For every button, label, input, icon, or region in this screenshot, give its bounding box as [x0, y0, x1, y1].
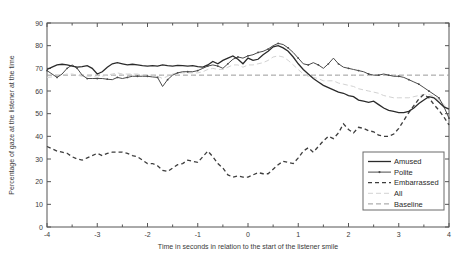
series-marker-polite	[267, 48, 269, 50]
series-marker-polite	[247, 55, 249, 57]
series-marker-polite	[368, 73, 370, 75]
y-tick-label: 10	[35, 201, 43, 208]
figure-background	[0, 0, 472, 255]
y-tick-label: 80	[35, 42, 43, 49]
x-tick-label: -1	[195, 231, 201, 238]
series-marker-polite	[287, 47, 289, 49]
series-marker-polite	[56, 77, 58, 79]
y-tick-label: 0	[39, 224, 43, 231]
x-tick-label: -3	[94, 231, 100, 238]
chart-legend[interactable]: AmusedPoliteEmbarrassedAllBaseline	[363, 152, 444, 210]
series-marker-polite	[227, 63, 229, 65]
y-tick-label: 50	[35, 110, 43, 117]
x-tick-label: 3	[397, 231, 401, 238]
y-tick-label: 30	[35, 156, 43, 163]
series-marker-polite	[378, 74, 380, 76]
legend-label: Baseline	[394, 200, 423, 209]
series-marker-polite	[217, 65, 219, 67]
series-marker-polite	[277, 43, 279, 45]
x-tick-label: -4	[44, 231, 50, 238]
series-marker-polite	[448, 117, 450, 119]
series-marker-polite	[177, 72, 179, 74]
series-marker-polite	[116, 77, 118, 79]
x-tick-label: 1	[296, 231, 300, 238]
series-marker-polite	[328, 63, 330, 65]
gaze-percentage-line-chart: 0102030405060708090-4-3-2-101234 AmusedP…	[0, 0, 472, 255]
series-marker-polite	[398, 75, 400, 77]
x-tick-label: 2	[347, 231, 351, 238]
series-marker-polite	[348, 67, 350, 69]
series-marker-polite	[408, 79, 410, 81]
x-tick-label: 0	[246, 231, 250, 238]
y-tick-label: 70	[35, 65, 43, 72]
series-marker-polite	[438, 97, 440, 99]
series-marker-polite	[297, 57, 299, 59]
y-tick-label: 60	[35, 88, 43, 95]
series-marker-polite	[257, 52, 259, 54]
y-axis-title: Percentage of gaze at the listener at th…	[8, 55, 16, 194]
x-tick-label: 4	[447, 231, 451, 238]
legend-label: Polite	[394, 168, 413, 177]
x-axis-title: Time in seconds in relation to the start…	[158, 243, 338, 250]
series-marker-polite	[428, 90, 430, 92]
y-tick-label: 40	[35, 133, 43, 140]
series-marker-polite	[96, 78, 98, 80]
series-marker-polite	[86, 78, 88, 80]
series-marker-polite	[338, 63, 340, 65]
y-tick-label: 90	[35, 20, 43, 27]
series-marker-polite	[307, 64, 309, 66]
y-tick-label: 20	[35, 178, 43, 185]
series-marker-polite	[66, 67, 68, 69]
series-marker-polite	[127, 77, 129, 79]
series-marker-polite	[388, 74, 390, 76]
series-marker-polite	[187, 71, 189, 73]
legend-label: Amused	[394, 157, 422, 166]
chart-figure: 0102030405060708090-4-3-2-101234 AmusedP…	[0, 0, 472, 255]
legend-label: All	[394, 189, 403, 198]
series-marker-polite	[358, 70, 360, 72]
legend-label: Embarrassed	[394, 178, 439, 187]
x-tick-label: -2	[144, 231, 150, 238]
series-marker-polite	[46, 70, 48, 72]
series-marker-polite	[197, 70, 199, 72]
series-marker-polite	[106, 78, 108, 80]
series-marker-polite	[418, 83, 420, 85]
series-marker-polite	[237, 56, 239, 58]
legend-marker-polite	[378, 171, 380, 173]
series-marker-polite	[147, 75, 149, 77]
series-marker-polite	[157, 77, 159, 79]
series-marker-polite	[167, 79, 169, 81]
series-marker-polite	[137, 75, 139, 77]
series-marker-polite	[317, 64, 319, 66]
